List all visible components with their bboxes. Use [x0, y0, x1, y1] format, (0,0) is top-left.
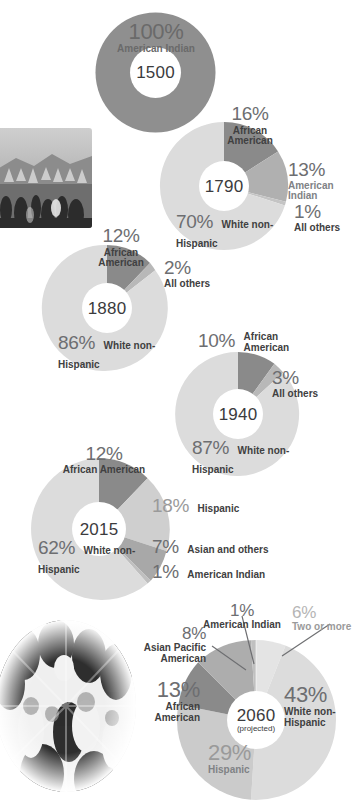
label-1790-white: 70% White non-Hispanic — [176, 212, 296, 250]
label-1790-other-name: All others — [294, 223, 360, 234]
chart-2060-year: 2060 — [237, 707, 276, 724]
label-1880-aa-name: African American — [93, 248, 149, 270]
label-2060-aa-pct: 13% — [122, 678, 200, 702]
label-1790-all-others: 1% All others — [294, 202, 360, 233]
label-1880-aa-pct: 12% — [80, 226, 162, 247]
chart-1790-hub: 1790 — [199, 161, 249, 211]
label-2015-american-indian: 1% American Indian — [152, 562, 332, 583]
label-1500-pct: 100% — [96, 20, 216, 44]
label-1790-ai-pct: 13% — [288, 160, 360, 181]
label-1790-ai-name: American Indian — [288, 181, 340, 203]
chart-2060-projected-note: (projected) — [237, 725, 275, 733]
chart-1940-hub: 1940 — [213, 389, 263, 439]
chart-1500-year: 1500 — [136, 64, 175, 81]
label-2015-aa-name: African American — [40, 465, 168, 476]
label-1940-aa-pct: 10% — [198, 330, 235, 351]
label-2060-apa-pct: 8% — [128, 625, 206, 643]
chart-2015: 2015 — [28, 458, 170, 600]
label-2060-aa-name: African American — [142, 702, 200, 724]
label-1790-other-pct: 1% — [294, 202, 360, 223]
infographic-canvas: 1500 100% American Indian 1790 16% Afric… — [0, 0, 360, 802]
chart-1790-year: 1790 — [205, 178, 244, 195]
label-2060-african-american: 13% African American — [122, 678, 200, 723]
label-2015-hispanic: 18% Hispanic — [152, 496, 282, 517]
label-2060-asian-pacific: 8% Asian Pacific American — [128, 625, 206, 665]
label-1880-white: 86% White non-Hispanic — [58, 333, 178, 371]
label-1940-all-others: 3% All others — [272, 368, 342, 399]
chart-2015-year: 2015 — [80, 521, 119, 538]
label-1880-white-pct: 86% — [58, 332, 95, 353]
label-1880-african-american: 12% African American — [80, 226, 162, 269]
photo-encampment-art — [0, 118, 92, 234]
label-1940-aa-name: African American — [244, 331, 296, 353]
label-1880-other-pct: 2% — [164, 258, 234, 279]
label-2015-asian: 7% Asian and others — [152, 537, 322, 558]
label-2015-african-american: 12% African American — [40, 444, 168, 475]
label-2015-ai-name: American Indian — [187, 569, 265, 580]
label-1790-american-indian: 13% American Indian — [288, 160, 360, 202]
label-1790-white-pct: 70% — [176, 211, 213, 232]
chart-1880-hub: 1880 — [82, 283, 132, 333]
label-1940-white-pct: 87% — [192, 437, 229, 458]
label-2060-hisp-name: Hispanic — [208, 765, 288, 776]
label-2060-white: 43% White non-Hispanic — [284, 683, 360, 728]
label-1940-white: 87% White non-Hispanic — [192, 438, 312, 476]
label-1500-name: American Indian — [96, 44, 216, 55]
label-2060-apa-name: Asian Pacific American — [128, 643, 206, 665]
label-2060-tom-name: Two or more — [292, 622, 360, 633]
label-1500-american-indian: 100% American Indian — [96, 20, 216, 55]
label-1880-all-others: 2% All others — [164, 258, 234, 289]
label-2060-two-or-more: 6% Two or more — [292, 604, 360, 633]
label-2015-white: 62% White non-Hispanic — [38, 538, 158, 576]
label-2060-white-name: White non-Hispanic — [284, 707, 360, 729]
label-1940-other-name: All others — [272, 389, 342, 400]
label-1940-african-american: 10% African American — [198, 331, 318, 353]
chart-1880-year: 1880 — [88, 300, 127, 317]
label-1790-african-american: 16% African American — [205, 104, 295, 147]
label-1940-other-pct: 3% — [272, 368, 342, 389]
label-2015-aa-pct: 12% — [40, 444, 168, 465]
label-1790-aa-name: African American — [220, 126, 280, 148]
chart-1940-year: 1940 — [219, 406, 258, 423]
label-2015-asian-name: Asian and others — [187, 544, 268, 555]
label-2060-white-pct: 43% — [284, 683, 360, 707]
label-2015-hisp-pct: 18% — [152, 495, 189, 516]
label-2060-hisp-pct: 29% — [208, 741, 288, 765]
leader-asian-pacific — [212, 646, 246, 670]
label-2015-hisp-name: Hispanic — [198, 503, 240, 514]
label-2060-ai-pct: 1% — [176, 602, 308, 620]
label-2060-hispanic: 29% Hispanic — [208, 741, 288, 776]
label-1790-aa-pct: 16% — [205, 104, 295, 125]
label-2015-white-pct: 62% — [38, 537, 75, 558]
photo-encampment — [0, 118, 92, 234]
label-1880-other-name: All others — [164, 279, 234, 290]
label-2060-tom-pct: 6% — [292, 604, 360, 622]
chart-1500-hub: 1500 — [130, 47, 181, 98]
